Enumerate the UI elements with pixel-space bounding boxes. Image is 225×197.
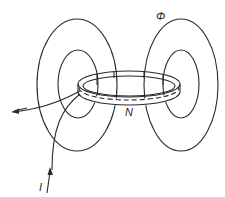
magnetic-field-diagram: Φ N I	[0, 0, 225, 197]
left-outer-flux-line	[37, 19, 117, 151]
left-flux-loops	[37, 19, 117, 151]
coil-ring	[78, 71, 180, 106]
current-label: I	[39, 181, 42, 193]
outgoing-current-arrow-icon	[12, 109, 19, 115]
turns-label: N	[125, 106, 133, 118]
incoming-wire-arrow-shaft	[47, 172, 50, 193]
coil-top-outer-edge	[78, 71, 180, 97]
flux-label: Φ	[156, 10, 165, 22]
right-outer-flux-line	[144, 19, 218, 151]
right-flux-loops	[144, 19, 218, 151]
lead-wires	[12, 91, 80, 193]
right-inner-flux-line	[163, 50, 199, 118]
incoming-wire	[52, 94, 80, 170]
